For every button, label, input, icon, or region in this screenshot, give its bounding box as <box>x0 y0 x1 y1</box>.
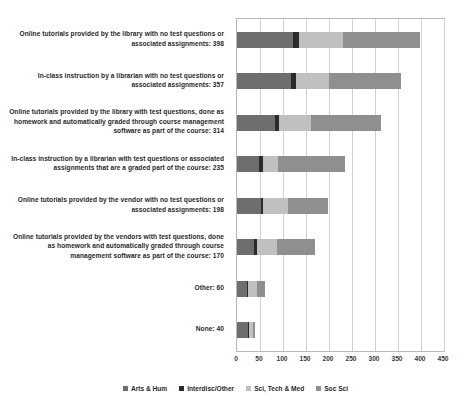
bar-segment <box>237 32 293 48</box>
bar-segment <box>257 281 265 297</box>
gridline <box>260 19 261 351</box>
bar-segment <box>237 115 275 131</box>
gridline <box>375 19 376 351</box>
bar-segment <box>263 198 289 214</box>
legend-swatch-icon <box>316 386 321 391</box>
legend-swatch-icon <box>246 386 251 391</box>
chart-title <box>60 0 400 6</box>
stacked-bar <box>237 115 381 131</box>
stacked-bar <box>237 198 328 214</box>
legend-label: Arts & Hum <box>131 385 167 392</box>
x-axis-tick-label: 50 <box>255 355 262 362</box>
legend-swatch-icon <box>123 386 128 391</box>
bar-segment <box>343 32 420 48</box>
x-axis: 050100150200250300350400450 <box>236 352 443 366</box>
x-axis-tick-label: 200 <box>322 355 333 362</box>
bar-segment <box>299 32 343 48</box>
gridline <box>444 19 445 351</box>
legend-label: Sci, Tech & Med <box>254 385 304 392</box>
category-label: In-class instruction by a librarian with… <box>8 154 224 173</box>
x-axis-tick-label: 150 <box>299 355 310 362</box>
bar-segment <box>237 198 261 214</box>
legend-label: Soc Sci <box>324 385 348 392</box>
stacked-bar <box>237 73 401 89</box>
bar-segment <box>329 73 402 89</box>
legend-swatch-icon <box>179 386 184 391</box>
category-label: Online tutorials provided by the vendors… <box>8 232 224 261</box>
gridline <box>306 19 307 351</box>
gridline <box>283 19 284 351</box>
bar-segment <box>248 281 256 297</box>
x-axis-tick-label: 350 <box>391 355 402 362</box>
bar-segment <box>237 73 291 89</box>
legend-label: Interdisc/Other <box>187 385 234 392</box>
legend-item[interactable]: Sci, Tech & Med <box>246 385 304 392</box>
category-label: Online tutorials provided by the library… <box>8 107 224 136</box>
stacked-bar <box>237 239 315 255</box>
stacked-bar <box>237 322 255 338</box>
gridline <box>398 19 399 351</box>
legend-item[interactable]: Soc Sci <box>316 385 348 392</box>
bar-segment <box>278 156 345 172</box>
stacked-bar <box>237 156 345 172</box>
bar-segment <box>277 239 315 255</box>
x-axis-tick-label: 0 <box>234 355 238 362</box>
legend-item[interactable]: Arts & Hum <box>123 385 167 392</box>
bar-segment <box>237 239 254 255</box>
legend-item[interactable]: Interdisc/Other <box>179 385 234 392</box>
category-label: Other: 60 <box>8 283 224 293</box>
category-label: In-class instruction by a librarian with… <box>8 71 224 90</box>
plot-area <box>236 18 445 352</box>
stacked-bar <box>237 32 420 48</box>
x-axis-tick-label: 250 <box>345 355 356 362</box>
gridline <box>352 19 353 351</box>
x-axis-tick-label: 450 <box>437 355 448 362</box>
bar-segment <box>237 281 247 297</box>
bar-segment <box>237 156 259 172</box>
gridline <box>421 19 422 351</box>
x-axis-tick-label: 300 <box>368 355 379 362</box>
bar-segment <box>311 115 382 131</box>
x-axis-tick-label: 400 <box>414 355 425 362</box>
bar-segment <box>237 322 248 338</box>
category-label-column: Online tutorials provided by the library… <box>0 18 228 350</box>
bar-segment <box>288 198 328 214</box>
gridline <box>329 19 330 351</box>
category-label: Online tutorials provided by the vendor … <box>8 195 224 214</box>
bar-segment <box>263 156 279 172</box>
stacked-bar <box>237 281 265 297</box>
chart-page: Online tutorials provided by the library… <box>0 0 471 410</box>
bar-segment <box>253 322 256 338</box>
bar-segment <box>257 239 277 255</box>
chart-legend: Arts & HumInterdisc/OtherSci, Tech & Med… <box>0 385 471 392</box>
category-label: None: 40 <box>8 324 224 334</box>
category-label: Online tutorials provided by the library… <box>8 29 224 48</box>
x-axis-tick-label: 100 <box>276 355 287 362</box>
bar-segment <box>296 73 328 89</box>
bar-segment <box>279 115 310 131</box>
